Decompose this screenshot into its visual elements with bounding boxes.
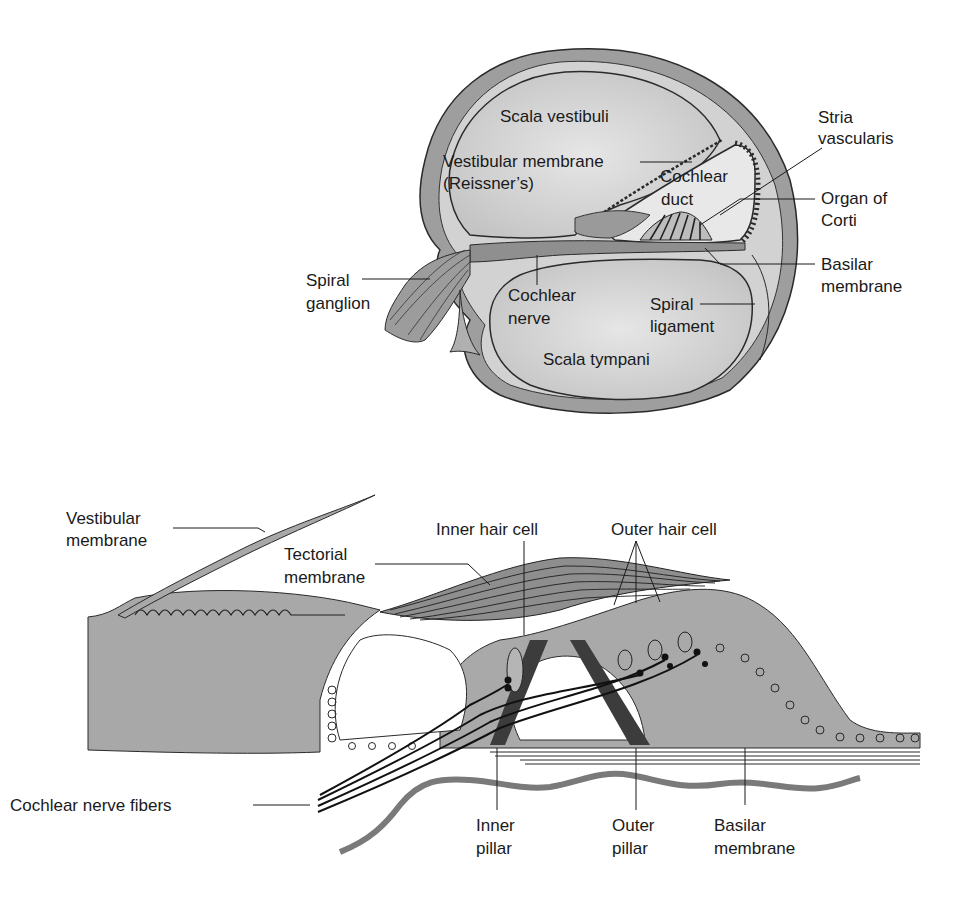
label-cochlear-nerve-1: Cochlear <box>508 285 576 306</box>
label-organ-of-corti-1: Organ of <box>821 188 887 209</box>
label-outer-pillar-1: Outer <box>612 815 655 836</box>
basilar-membrane-lines <box>490 752 920 764</box>
label-cochlear-duct-2: duct <box>661 189 693 210</box>
label-tectorial-membrane-1: Tectorial <box>284 544 347 565</box>
label-spiral-ligament-1: Spiral <box>650 294 693 315</box>
label-basilar-membrane-top-2: membrane <box>821 276 902 297</box>
label-basilar-membrane-b-2: membrane <box>714 838 795 859</box>
label-stria-vascularis-1: Stria <box>818 107 853 128</box>
label-stria-vascularis-2: vascularis <box>818 128 894 149</box>
label-cochlear-duct-1: Cochlear <box>660 166 728 187</box>
label-basilar-membrane-b-1: Basilar <box>714 815 766 836</box>
label-cochlear-nerve-fibers: Cochlear nerve fibers <box>10 795 172 816</box>
label-tectorial-membrane-2: membrane <box>284 567 365 588</box>
label-spiral-ganglion-1: Spiral <box>306 270 349 291</box>
label-scala-tympani: Scala tympani <box>543 349 650 370</box>
label-scala-vestibuli: Scala vestibuli <box>500 106 609 127</box>
label-spiral-ligament-2: ligament <box>650 316 714 337</box>
inner-sulcus <box>335 635 466 740</box>
label-inner-pillar-2: pillar <box>476 838 512 859</box>
label-outer-pillar-2: pillar <box>612 838 648 859</box>
label-inner-hair-cell: Inner hair cell <box>436 519 538 540</box>
label-outer-hair-cell: Outer hair cell <box>611 519 717 540</box>
label-vestibular-membrane-b-1: Vestibular <box>66 508 141 529</box>
label-inner-pillar-1: Inner <box>476 815 515 836</box>
organ-of-corti-detail <box>88 495 920 852</box>
label-vestibular-membrane-1: Vestibular membrane <box>443 151 604 172</box>
label-vestibular-membrane-b-2: membrane <box>66 530 147 551</box>
label-vestibular-membrane-2: (Reissner’s) <box>443 173 534 194</box>
label-spiral-ganglion-2: ganglion <box>306 293 370 314</box>
label-cochlear-nerve-2: nerve <box>508 308 551 329</box>
label-basilar-membrane-top-1: Basilar <box>821 254 873 275</box>
label-organ-of-corti-2: Corti <box>821 210 857 231</box>
